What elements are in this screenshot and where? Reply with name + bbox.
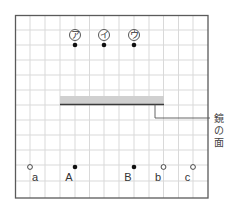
point-label-b-lower: b: [155, 171, 161, 183]
filled-point-icon: [102, 43, 107, 48]
grid-frame: [16, 16, 209, 199]
point-label-u: ウ: [130, 30, 139, 40]
bottom-point-a-lower: a: [28, 165, 39, 183]
bottom-point-b-lower: b: [155, 165, 166, 183]
point-label-a-lower: a: [32, 171, 39, 183]
bottom-point-A-upper: A: [65, 165, 77, 183]
point-label-B-upper: B: [124, 171, 131, 183]
filled-point-icon: [73, 165, 78, 170]
filled-point-icon: [132, 165, 137, 170]
point-label-i: イ: [100, 30, 109, 40]
point-label-c-lower: c: [185, 171, 191, 183]
filled-point-icon: [132, 43, 137, 48]
open-point-icon: [28, 165, 33, 170]
mirror-label-char-1: 鏡: [214, 112, 224, 124]
mirror-band: [60, 96, 164, 104]
bottom-point-c-lower: c: [185, 165, 196, 183]
bottom-point-B-upper: B: [124, 165, 136, 183]
mirror-label-char-3: 面: [214, 137, 224, 148]
mirror-label-char-2: の: [214, 125, 224, 136]
open-point-icon: [191, 165, 196, 170]
mirror: 鏡 の 面: [60, 96, 224, 148]
point-label-a: ア: [71, 30, 80, 40]
filled-point-icon: [73, 43, 78, 48]
point-label-A-upper: A: [65, 171, 73, 183]
mirror-grid-diagram: 鏡 の 面 ア イ ウ a A B b c: [0, 0, 238, 212]
grid-lines: [15, 15, 208, 198]
open-point-icon: [161, 165, 166, 170]
